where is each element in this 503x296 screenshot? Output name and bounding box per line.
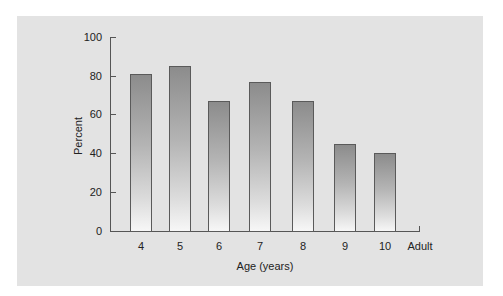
y-tick — [110, 153, 116, 154]
x-axis-end-tick — [419, 226, 420, 232]
bar-10 — [374, 153, 396, 232]
y-tick — [110, 231, 116, 232]
y-axis — [110, 37, 111, 232]
y-tick-label: 0 — [62, 225, 102, 237]
x-tick-label: 10 — [365, 240, 405, 252]
x-tick-label: 9 — [325, 240, 365, 252]
x-tick-label: 7 — [240, 240, 280, 252]
bar-8 — [292, 101, 314, 232]
bar-9 — [334, 144, 356, 232]
bar-7 — [249, 82, 271, 232]
x-tick-label: 6 — [199, 240, 239, 252]
bar-6 — [208, 101, 230, 232]
y-tick — [110, 192, 116, 193]
x-axis-title: Age (years) — [215, 260, 315, 272]
x-tick-label: 4 — [121, 240, 161, 252]
y-tick-label: 80 — [62, 70, 102, 82]
bar-4 — [130, 74, 152, 232]
x-tick-label: Adult — [400, 240, 440, 252]
y-tick — [110, 114, 116, 115]
y-tick — [110, 37, 116, 38]
y-tick — [110, 76, 116, 77]
bar-5 — [169, 66, 191, 232]
y-tick-label: 40 — [62, 147, 102, 159]
y-tick-label: 100 — [62, 31, 102, 43]
y-tick-label: 20 — [62, 186, 102, 198]
x-tick-label: 5 — [160, 240, 200, 252]
y-tick-label: 60 — [62, 108, 102, 120]
x-tick-label: 8 — [283, 240, 323, 252]
